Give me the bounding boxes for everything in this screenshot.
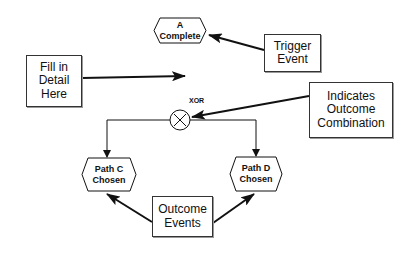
- connector-xor-to-path-d: [190, 120, 256, 156]
- event-a-complete: A Complete: [154, 18, 206, 43]
- annotation-fill-in: Fill in Detail Here: [26, 55, 82, 107]
- event-a-complete-line-1: A: [177, 20, 184, 31]
- event-path-c: Path C Chosen: [82, 158, 136, 191]
- annotation-indicates-line-2: Outcome: [327, 103, 376, 116]
- connector-xor-to-path-c: [107, 120, 170, 157]
- event-path-d: Path D Chosen: [230, 157, 282, 191]
- xor-gate-icon: [170, 110, 190, 130]
- arrow-trigger: [209, 35, 264, 50]
- annotation-outcome-line-1: Outcome: [158, 203, 207, 216]
- annotation-fill-in-line-2: Detail: [39, 74, 70, 87]
- annotation-outcome-line-2: Events: [164, 217, 201, 230]
- arrow-outcome-to-path-d: [213, 194, 254, 223]
- annotation-indicates: Indicates Outcome Combination: [309, 82, 393, 138]
- annotation-outcome: Outcome Events: [152, 196, 213, 237]
- xor-label: XOR: [189, 97, 204, 104]
- event-path-c-line-2: Chosen: [92, 175, 125, 186]
- annotation-indicates-line-3: Combination: [317, 117, 384, 130]
- event-path-c-line-1: Path C: [95, 164, 124, 175]
- event-path-d-line-1: Path D: [242, 163, 271, 174]
- event-a-complete-line-2: Complete: [159, 31, 200, 42]
- arrow-indicates: [192, 96, 309, 117]
- annotation-trigger: Trigger Event: [264, 34, 321, 72]
- event-path-d-line-2: Chosen: [239, 174, 272, 185]
- arrow-fill-in: [82, 76, 185, 78]
- annotation-fill-in-line-3: Here: [41, 88, 67, 101]
- arrow-outcome-to-path-c: [107, 194, 152, 222]
- annotation-trigger-line-2: Event: [277, 53, 308, 66]
